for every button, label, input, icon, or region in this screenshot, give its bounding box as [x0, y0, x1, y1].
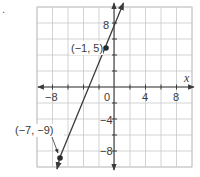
y-tick-label-neg4: −4 — [100, 114, 113, 126]
origin-label: 0 — [104, 91, 110, 103]
coordinate-graph: −8 4 8 0 8 −4 −8 x (−1, 5) (−7, −9) — [0, 0, 200, 177]
point-neg7-neg9 — [57, 155, 63, 161]
x-tick-label-4: 4 — [142, 91, 148, 103]
x-axis-label: x — [183, 71, 190, 85]
y-tick-label-neg8: −8 — [100, 145, 113, 157]
y-tick-label-8: 8 — [103, 19, 109, 31]
x-tick-label-8: 8 — [173, 91, 179, 103]
x-tick-label-neg8: −8 — [45, 91, 58, 103]
point-neg1-5 — [103, 45, 109, 51]
point-label-neg1-5: (−1, 5) — [71, 42, 103, 54]
point-label-neg7-neg9: (−7, −9) — [15, 124, 54, 136]
